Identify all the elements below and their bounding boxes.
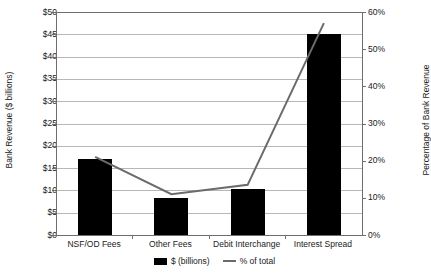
x-axis-category-label: Interest Spread [285,240,361,249]
y-axis-right-tick-label: 50% [368,45,428,54]
y-axis-left-tick-label: $5 [0,208,57,217]
legend-bar-label: $ (billions) [171,256,210,266]
y-axis-left-tick-label: $20 [0,141,57,150]
y-axis-left-tick-label: $40 [0,52,57,61]
plot-area [56,12,363,236]
legend-entry-bar: $ (billions) [154,256,210,266]
x-axis-tick-mark [285,235,286,239]
y-axis-left-tick-label: $25 [0,119,57,128]
x-axis-tick-mark [209,235,210,239]
legend-line-label: % of total [240,256,275,266]
y-axis-right-tick-label: 20% [368,156,428,165]
y-axis-left-tick-label: $35 [0,74,57,83]
legend-entry-line: % of total [223,256,275,266]
y-axis-left-tick-label: $50 [0,8,57,17]
y-axis-left-tick-label: $10 [0,186,57,195]
x-axis-category-label: Debit Interchange [209,240,285,249]
line-series [57,12,362,235]
y-axis-left-tick-label: $15 [0,164,57,173]
y-axis-right-tick-label: 30% [368,119,428,128]
y-axis-left-tick-label: $0 [0,231,57,240]
y-axis-right-tick-label: 0% [368,231,428,240]
chart-legend: $ (billions) % of total [0,256,429,266]
percent-of-total-line [95,23,324,194]
x-axis-tick-mark [132,235,133,239]
legend-bar-swatch-icon [154,258,167,265]
y-axis-left-tick-label: $45 [0,30,57,39]
x-axis-category-label: NSF/OD Fees [56,240,132,249]
y-axis-right-tick-label: 40% [368,82,428,91]
y-axis-right-tick-label: 60% [368,8,428,17]
y-axis-right-tick-label: 10% [368,193,428,202]
y-axis-left-tick-label: $30 [0,97,57,106]
x-axis-category-label: Other Fees [132,240,208,249]
legend-line-swatch-icon [223,260,236,262]
